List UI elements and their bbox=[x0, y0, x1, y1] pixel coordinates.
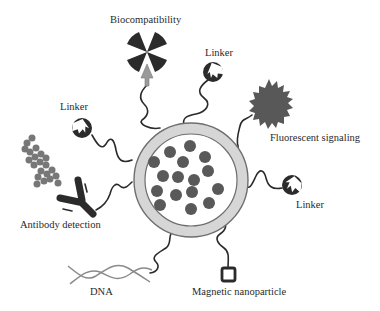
label-linker-right: Linker bbox=[296, 199, 324, 210]
label-biocompatibility: Biocompatibility bbox=[110, 14, 182, 25]
tether-linker-right bbox=[246, 171, 282, 189]
linker-icon-top bbox=[203, 60, 225, 82]
tether-linker-top bbox=[184, 80, 209, 126]
fluorescent-signal-icon bbox=[249, 79, 293, 129]
label-fluorescent-signaling: Fluorescent signaling bbox=[270, 132, 361, 143]
magnetic-nanoparticle-icon bbox=[222, 268, 235, 281]
tether-biocompatibility bbox=[140, 85, 160, 128]
linker-icon-left bbox=[71, 117, 92, 138]
tether-antibody bbox=[96, 182, 132, 210]
nanoparticle-diagram: Biocompatibility Linker Fluorescent sign… bbox=[0, 0, 380, 311]
antibody-icon bbox=[60, 180, 93, 214]
label-magnetic-nanoparticle: Magnetic nanoparticle bbox=[192, 286, 287, 297]
label-antibody-detection: Antibody detection bbox=[20, 219, 102, 230]
protein-cluster-icon bbox=[22, 135, 62, 188]
tether-linker-left bbox=[92, 135, 132, 162]
linker-icon-right bbox=[282, 174, 304, 195]
dna-icon bbox=[68, 266, 152, 284]
label-linker-top: Linker bbox=[205, 47, 233, 58]
core-nanoparticle bbox=[134, 123, 248, 237]
biocompatibility-icon bbox=[127, 32, 167, 86]
arrow-icon bbox=[141, 64, 153, 86]
label-dna: DNA bbox=[90, 286, 113, 297]
label-linker-left: Linker bbox=[60, 101, 88, 112]
